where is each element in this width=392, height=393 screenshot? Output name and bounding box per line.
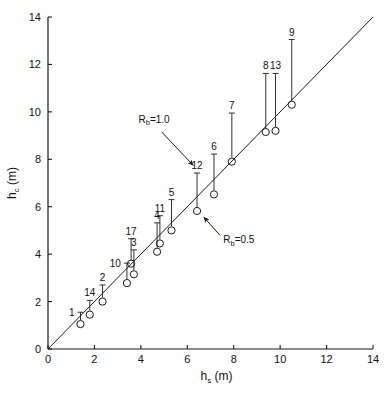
x-tick-label: 4 [138, 353, 144, 365]
y-tick-label: 12 [29, 58, 41, 70]
x-tick-label: 14 [367, 353, 379, 365]
point-label: 12 [191, 160, 203, 171]
x-tick-label: 6 [184, 353, 190, 365]
y-tick-label: 2 [35, 296, 41, 308]
point-label: 6 [211, 141, 217, 152]
point-label: 14 [84, 287, 96, 298]
y-tick-label: 10 [29, 106, 41, 118]
point-label: 8 [263, 60, 269, 71]
x-tick-label: 8 [231, 353, 237, 365]
y-tick-label: 8 [35, 153, 41, 165]
y-tick-label: 0 [35, 343, 41, 355]
y-tick-label: 14 [29, 11, 41, 23]
x-tick-label: 2 [91, 353, 97, 365]
x-tick-label: 12 [320, 353, 332, 365]
x-tick-label: 0 [45, 353, 51, 365]
y-axis-title: hc (m) [5, 167, 21, 199]
point-label: 7 [229, 100, 235, 111]
point-label: 1 [69, 307, 75, 318]
point-label: 10 [110, 258, 122, 269]
point-label: 17 [126, 226, 138, 237]
point-label: 11 [155, 203, 166, 214]
point-label: 2 [100, 272, 106, 283]
chart-figure: 0246810121402468101214 11421031741151267… [0, 0, 392, 393]
point-label: 5 [169, 187, 175, 198]
point-label: 9 [289, 27, 295, 38]
x-axis-title: hs (m) [200, 369, 232, 385]
y-tick-label: 6 [35, 201, 41, 213]
x-tick-label: 10 [274, 353, 286, 365]
plot-background [0, 0, 392, 393]
point-label: 13 [270, 60, 282, 71]
scatter-plot: 0246810121402468101214 11421031741151267… [0, 0, 392, 393]
y-tick-label: 4 [35, 248, 41, 260]
